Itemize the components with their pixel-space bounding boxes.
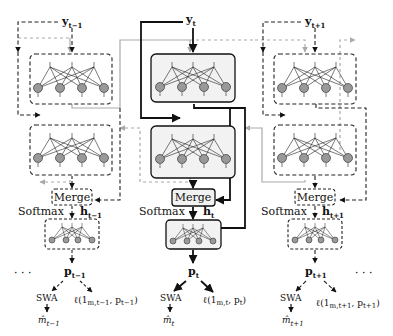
input-label-t-plus-1: yt+1 — [304, 15, 326, 30]
merge-node-t-minus-1: Merge — [52, 189, 92, 205]
softmax-box-t-plus-1 — [288, 219, 342, 249]
estimate-label-t-plus-1: m̂t+1 — [282, 315, 304, 328]
neural-net-icon — [278, 62, 353, 97]
loss-label-t: ℓ(1m,t, pt) — [203, 295, 246, 307]
merge-node-t: Merge — [172, 189, 215, 206]
svg-text:Merge: Merge — [54, 191, 91, 204]
svg-text:Merge: Merge — [175, 191, 212, 204]
hidden-label-t-minus-1: ht−1 — [80, 205, 102, 220]
column-t: yt — [139, 13, 246, 328]
merge-node-t-plus-1: Merge — [295, 189, 335, 205]
neural-net-icon — [34, 62, 109, 97]
backward-layer-box-t-minus-1 — [30, 125, 112, 175]
svg-text:Merge: Merge — [297, 191, 334, 204]
column-t-minus-1: yt−1 — [14, 15, 138, 328]
softmax-label-t-plus-1: Softmax — [261, 205, 308, 218]
hidden-label-t: ht — [203, 205, 215, 220]
softmax-label-t-minus-1: Softmax — [18, 205, 65, 218]
forward-layer-box-t-minus-1 — [30, 54, 112, 104]
forward-layer-box-t — [151, 54, 235, 102]
estimate-label-t-minus-1: m̂t−1 — [38, 315, 60, 328]
swa-label-t-plus-1: SWA — [280, 293, 302, 303]
output-label-t-plus-1: pt+1 — [305, 265, 327, 280]
loss-label-t-minus-1: ℓ(1m,t−1, pt−1) — [74, 295, 138, 307]
softmax-label-t: Softmax — [139, 205, 186, 218]
input-label-t: yt — [185, 13, 196, 28]
neural-net-icon — [278, 133, 353, 167]
hidden-label-t-plus-1: ht+1 — [322, 205, 344, 220]
network-diagram: yt−1 — [0, 0, 393, 336]
output-label-t: pt — [188, 265, 200, 280]
swa-label-t-minus-1: SWA — [36, 293, 58, 303]
estimate-label-t: m̂t — [163, 315, 175, 328]
backward-layer-box-t-plus-1 — [274, 125, 356, 175]
neural-net-icon — [34, 133, 109, 167]
softmax-box-t-minus-1 — [45, 219, 99, 249]
input-label-t-minus-1: yt−1 — [61, 15, 83, 30]
forward-layer-box-t-plus-1 — [274, 54, 356, 104]
ellipsis-left: · · · — [14, 267, 31, 280]
backward-layer-box-t — [151, 126, 235, 178]
swa-label-t: SWA — [160, 293, 182, 303]
softmax-box-t — [166, 220, 221, 249]
column-t-plus-1: yt+1 — [261, 15, 380, 328]
loss-label-t-plus-1: ℓ(1m,t+1, pt+1) — [316, 298, 380, 310]
ellipsis-right: · · · — [355, 267, 372, 280]
output-label-t-minus-1: pt−1 — [64, 265, 86, 280]
